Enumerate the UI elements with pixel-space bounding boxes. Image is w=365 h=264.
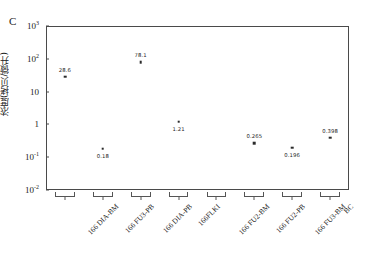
y-axis-tick-mark bbox=[46, 91, 49, 92]
y-axis-tick-label: 1 bbox=[35, 119, 40, 129]
x-axis-category-bracket bbox=[93, 192, 113, 197]
data-point-marker bbox=[329, 136, 332, 139]
figure-panel-c: C 浓度(拷贝/微升) 10310210110-110-2 28.60.1878… bbox=[0, 0, 365, 264]
data-point-marker bbox=[253, 142, 256, 145]
x-axis-tick-label: 166 DIA-PB bbox=[161, 202, 194, 235]
x-axis-category-bracket bbox=[207, 192, 227, 197]
x-axis-tick-label: 166FLKI bbox=[196, 202, 222, 228]
x-axis-tick-label: 166 FU3-PB bbox=[123, 202, 156, 235]
bracket-stem bbox=[102, 197, 103, 200]
bracket-stem bbox=[254, 197, 255, 200]
data-point-label: 78.1 bbox=[135, 52, 147, 58]
y-axis-tick-mark bbox=[46, 190, 49, 191]
data-point-label: 0.196 bbox=[284, 152, 300, 158]
y-axis-tick-labels: 10310210110-110-2 bbox=[0, 26, 43, 190]
bracket-stem bbox=[216, 197, 217, 200]
y-axis-tick-label: 10-2 bbox=[25, 185, 39, 195]
data-point-label: 0.18 bbox=[97, 153, 109, 159]
x-axis-tick-label: 166 FU2-BM bbox=[237, 202, 272, 237]
data-point-label: 28.6 bbox=[59, 67, 71, 73]
x-axis-category-bracket bbox=[282, 192, 302, 197]
plot-area bbox=[46, 26, 349, 190]
x-axis-category-bracket bbox=[320, 192, 340, 197]
data-point-marker bbox=[139, 61, 142, 64]
bracket-stem bbox=[292, 197, 293, 200]
bracket-stem bbox=[64, 197, 65, 200]
x-axis-category-bracket bbox=[131, 192, 151, 197]
y-axis-tick-mark bbox=[46, 26, 49, 27]
y-axis-tick-label: 10-1 bbox=[25, 152, 39, 162]
x-axis-category-bracket bbox=[244, 192, 264, 197]
bracket-stem bbox=[330, 197, 331, 200]
y-axis-tick-mark bbox=[46, 58, 49, 59]
x-axis-category-bracket bbox=[169, 192, 189, 197]
y-axis-tick-label: 102 bbox=[27, 54, 39, 64]
data-point-label: 1.21 bbox=[172, 126, 184, 132]
y-axis-tick-label: 10 bbox=[30, 87, 39, 97]
data-point-marker bbox=[64, 75, 67, 78]
bracket-stem bbox=[178, 197, 179, 200]
y-axis-tick-mark bbox=[46, 157, 49, 158]
data-point-marker bbox=[102, 148, 105, 151]
x-axis-tick-label: 166 DIA-BM bbox=[86, 202, 121, 237]
y-axis-tick-mark bbox=[46, 124, 49, 125]
data-point-marker bbox=[177, 120, 180, 123]
x-axis-tick-label: 166 FU2-PB bbox=[274, 202, 307, 235]
data-point-marker bbox=[291, 146, 294, 149]
data-point-label: 0.265 bbox=[246, 133, 262, 139]
y-axis-tick-label: 103 bbox=[27, 21, 39, 31]
bracket-stem bbox=[140, 197, 141, 200]
data-point-label: 0.398 bbox=[322, 128, 338, 134]
x-axis-category-bracket bbox=[55, 192, 75, 197]
